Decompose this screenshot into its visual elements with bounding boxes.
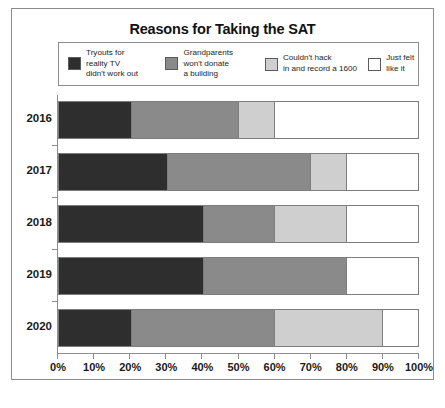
bar-segment-series-0[interactable] [59, 154, 167, 190]
bar-segment-series-3[interactable] [346, 154, 418, 190]
x-axis-tick-label: 80% [336, 361, 358, 373]
legend-swatch-series-0 [68, 57, 81, 70]
table-row[interactable] [58, 309, 419, 347]
x-axis-tick-label: 10% [83, 361, 105, 373]
x-axis-tick [310, 353, 311, 359]
bar-segment-series-1[interactable] [167, 154, 311, 190]
bar-segment-series-2[interactable] [274, 206, 346, 242]
bar-segment-series-1[interactable] [203, 206, 275, 242]
bar-segment-series-3[interactable] [346, 258, 418, 294]
bar-segment-series-1[interactable] [131, 310, 275, 346]
plot-area: 2016 2017 2018 2019 2020 [58, 95, 419, 357]
bar-segment-series-3[interactable] [274, 102, 418, 138]
legend-label-series-2: Couldn't hack in and record a 1600 [283, 53, 357, 74]
table-row[interactable] [58, 257, 419, 295]
x-axis-tick [418, 353, 419, 359]
bar-segment-series-3[interactable] [346, 206, 418, 242]
x-axis-tick-label: 20% [119, 361, 141, 373]
legend-label-series-0: Tryouts for reality TV didn't work out [86, 48, 138, 80]
x-axis-tick-label: 0% [50, 361, 66, 373]
bar-segment-series-0[interactable] [59, 310, 131, 346]
bar-segment-series-1[interactable] [203, 258, 347, 294]
y-axis-label-2016: 2016 [14, 112, 52, 124]
y-axis-tick [52, 197, 58, 198]
chart-title: Reasons for Taking the SAT [12, 21, 433, 37]
legend-item[interactable]: Grandparents won't donate a building [165, 48, 264, 80]
legend-swatch-series-2 [265, 58, 278, 71]
y-axis-label-2017: 2017 [14, 164, 52, 176]
x-axis-tick [274, 353, 275, 359]
y-axis-label-2020: 2020 [14, 320, 52, 332]
legend-label-series-1: Grandparents won't donate a building [183, 48, 233, 80]
x-axis-tick [238, 353, 239, 359]
y-axis-label-2018: 2018 [14, 216, 52, 228]
bar-segment-series-3[interactable] [382, 310, 418, 346]
x-axis-tick [165, 353, 166, 359]
bar-segment-series-2[interactable] [238, 102, 274, 138]
legend-item[interactable]: Tryouts for reality TV didn't work out [59, 48, 165, 80]
x-axis-tick [201, 353, 202, 359]
legend-item[interactable]: Couldn't hack in and record a 1600 [265, 53, 368, 74]
x-axis-tick-label: 100% [405, 361, 433, 373]
bar-segment-series-0[interactable] [59, 206, 203, 242]
x-axis-tick-label: 70% [300, 361, 322, 373]
x-axis-tick-label: 60% [264, 361, 286, 373]
legend-label-series-3: Just felt like it [386, 53, 414, 74]
table-row[interactable] [58, 205, 419, 243]
x-axis-tick [57, 353, 58, 359]
table-row[interactable] [58, 101, 419, 139]
y-axis-tick [52, 145, 58, 146]
y-axis-label-2019: 2019 [14, 268, 52, 280]
y-axis-tick [52, 249, 58, 250]
legend-swatch-series-3 [368, 58, 381, 71]
x-axis-tick-label: 40% [191, 361, 213, 373]
x-axis-tick-label: 30% [155, 361, 177, 373]
table-row[interactable] [58, 153, 419, 191]
x-axis-tick [346, 353, 347, 359]
chart-container: Reasons for Taking the SAT Tryouts for r… [11, 8, 434, 380]
bar-segment-series-2[interactable] [274, 310, 382, 346]
bar-segment-series-0[interactable] [59, 258, 203, 294]
x-axis-tick [382, 353, 383, 359]
x-axis-tick-label: 50% [227, 361, 249, 373]
y-axis-tick [52, 301, 58, 302]
bar-segment-series-2[interactable] [310, 154, 346, 190]
bar-segment-series-0[interactable] [59, 102, 131, 138]
x-axis-tick [93, 353, 94, 359]
x-axis-tick-label: 90% [372, 361, 394, 373]
bar-segment-series-1[interactable] [131, 102, 239, 138]
x-axis-tick [129, 353, 130, 359]
legend-item[interactable]: Just felt like it [368, 53, 418, 74]
chart-legend: Tryouts for reality TV didn't work out G… [58, 42, 419, 86]
legend-swatch-series-1 [165, 57, 178, 70]
